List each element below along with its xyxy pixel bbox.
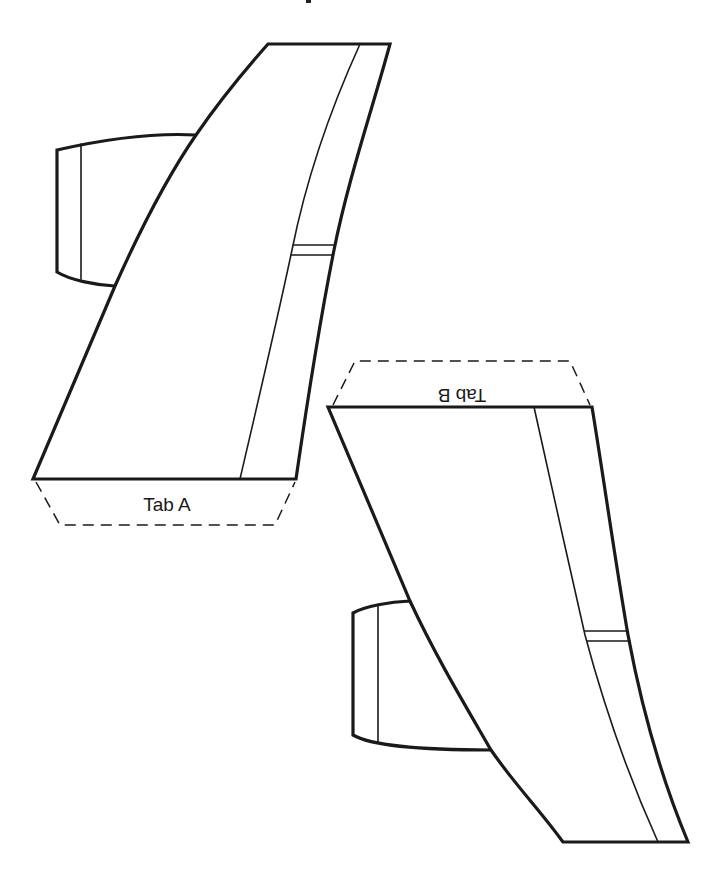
- tab-a: Tab A: [36, 482, 295, 525]
- tab-b-label: Tab B: [438, 385, 487, 406]
- fin-template-diagram: Tab A Tab B: [0, 0, 722, 878]
- tab-a-label: Tab A: [143, 494, 191, 515]
- tab-b: Tab B: [333, 361, 590, 406]
- fin-piece-a: Tab A: [33, 44, 390, 525]
- fin-piece-b: Tab B: [328, 361, 688, 842]
